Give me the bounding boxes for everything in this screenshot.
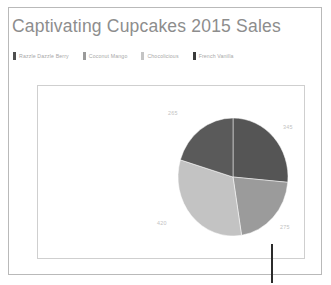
legend-swatch-icon xyxy=(193,52,196,60)
pie-data-label: 275 xyxy=(280,224,290,230)
pie-slices xyxy=(178,118,288,236)
pie-data-label: 265 xyxy=(168,110,178,116)
legend-item-label: Coconut Mango xyxy=(89,52,128,60)
pie-chart-svg xyxy=(178,118,288,236)
legend-item-label: French Vanilla xyxy=(199,52,234,60)
legend-swatch-icon xyxy=(13,52,16,60)
chart-screenshot: Captivating Cupcakes 2015 Sales Razzle D… xyxy=(0,0,331,285)
legend-item-razzle-dazzle-berry[interactable]: Razzle Dazzle Berry xyxy=(13,52,69,60)
legend-item-coconut-mango[interactable]: Coconut Mango xyxy=(83,52,128,60)
page-title: Captivating Cupcakes 2015 Sales xyxy=(12,16,281,37)
chart-legend: Razzle Dazzle Berry Coconut Mango Chocol… xyxy=(13,52,234,60)
legend-item-french-vanilla[interactable]: French Vanilla xyxy=(193,52,234,60)
legend-swatch-icon xyxy=(83,52,86,60)
pie-data-label: 420 xyxy=(157,220,167,226)
legend-item-chocolicious[interactable]: Chocolicious xyxy=(141,52,178,60)
pie-slice[interactable] xyxy=(233,118,288,182)
pie-data-label: 345 xyxy=(283,124,293,130)
vertical-line-marker-icon xyxy=(271,244,273,283)
legend-item-label: Razzle Dazzle Berry xyxy=(19,52,69,60)
legend-swatch-icon xyxy=(141,52,144,60)
pie-chart xyxy=(178,118,288,236)
legend-item-label: Chocolicious xyxy=(147,52,178,60)
